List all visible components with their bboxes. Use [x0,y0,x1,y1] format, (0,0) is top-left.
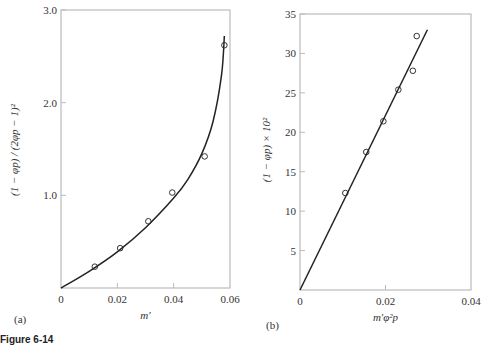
y-tick-label: 25 [285,87,297,99]
x-tick-label: 0.06 [220,293,240,305]
x-tick-label: 0.02 [376,295,395,307]
x-tick-label: 0.02 [108,293,127,305]
y-tick-label: 5 [291,245,297,257]
fit-line [300,30,427,290]
y-tick-label: 2.0 [43,97,57,109]
plot-frame [300,14,471,290]
panel-b: 00.020.045101520253035m′φ²p(1 − φp) × 10… [260,8,481,332]
x-tick-label: 0.04 [164,293,184,305]
y-tick-label: 3.0 [43,4,57,16]
x-axis-label: m′ [140,309,151,321]
figure-caption: Figure 6-14 [0,334,53,345]
y-axis-label: (1 − φp) / (2φp − 1)² [8,103,21,196]
data-point [410,68,416,74]
fit-line [61,36,224,288]
y-axis-label: (1 − φp) × 10² [260,117,273,182]
x-tick-label: 0.04 [461,295,481,307]
panel-label: (b) [266,319,279,332]
y-tick-label: 10 [285,205,297,217]
x-axis-label: m′φ²p [373,311,399,323]
plot-frame [61,10,230,288]
y-tick-label: 35 [285,8,297,20]
x-tick-label: 0 [297,295,303,307]
figure-canvas: 00.020.040.061.02.03.0m′(1 − φp) / (2φp … [0,0,481,350]
data-point [169,190,175,196]
data-point [414,33,420,39]
y-tick-label: 30 [285,47,297,59]
x-tick-label: 0 [58,293,64,305]
panel-label: (a) [14,313,27,326]
y-tick-label: 1.0 [43,189,57,201]
data-point [202,154,208,160]
y-tick-label: 15 [285,166,297,178]
panel-a: 00.020.040.061.02.03.0m′(1 − φp) / (2φp … [8,4,240,326]
y-tick-label: 20 [285,126,297,138]
